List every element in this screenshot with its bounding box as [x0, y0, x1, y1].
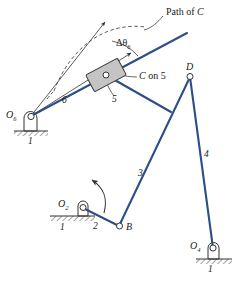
joint-d: [187, 74, 193, 80]
ground-label-o6: 1: [28, 137, 33, 147]
path-of-c-text: Path of: [166, 6, 195, 17]
path-of-c-label: Path of C: [166, 7, 204, 17]
angle-leg-previous: [31, 22, 105, 116]
link-label-4: 4: [204, 150, 209, 160]
joint-b: [117, 223, 123, 229]
ground-label-o4: 1: [208, 265, 213, 275]
joint-label-b-letter: B: [126, 221, 132, 232]
link-label-5: 5: [112, 95, 117, 105]
joint-label-d-letter: D: [186, 61, 193, 72]
link-label-2: 2: [93, 222, 98, 232]
delta-theta-label: Δθ6: [116, 38, 130, 48]
path-of-c-variable: C: [197, 6, 204, 17]
delta-theta-subscript: 6: [127, 43, 130, 50]
path-of-c-arc-tail: [47, 91, 54, 99]
joint-o6: [28, 113, 34, 119]
path-of-c-leader: [144, 16, 163, 30]
joint-c: [103, 72, 109, 78]
crank-rotation-arrow: [92, 180, 106, 213]
joint-label-o6-subscript: 6: [13, 115, 16, 122]
link-3: [119, 77, 190, 226]
joint-label-o4-subscript: 4: [197, 246, 200, 253]
delta-theta-symbol: Δθ: [116, 37, 127, 48]
c-on-5-label: C on 5: [139, 71, 166, 81]
link-label-3: 3: [138, 169, 143, 179]
joint-label-o4: O4: [190, 241, 200, 251]
c-on-5-text: on 5: [148, 70, 166, 81]
c-on-5-variable: C: [139, 70, 146, 81]
joint-label-d: D: [186, 62, 193, 72]
joint-label-b: B: [126, 222, 132, 232]
linkage-diagram: Path of C Δθ6 C on 5 O6 B O2 D O4 6 5 3 …: [0, 0, 244, 283]
joint-label-o2-subscript: 2: [65, 204, 68, 211]
ground-label-o2: 1: [60, 223, 65, 233]
link-label-6: 6: [62, 96, 67, 106]
joint-o2: [80, 205, 86, 211]
joint-o4: [210, 245, 216, 251]
joint-label-o2: O2: [58, 199, 68, 209]
link-4: [190, 77, 213, 248]
joint-label-o6: O6: [6, 110, 16, 120]
